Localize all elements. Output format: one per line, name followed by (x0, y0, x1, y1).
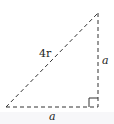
hypotenuse-line (6, 13, 98, 107)
horizontal-leg-label: a (49, 111, 56, 122)
right-triangle-diagram (0, 0, 114, 124)
right-angle-marker (89, 98, 98, 107)
vertical-leg-label: a (102, 55, 109, 66)
hypotenuse-label: 4r (39, 48, 51, 59)
